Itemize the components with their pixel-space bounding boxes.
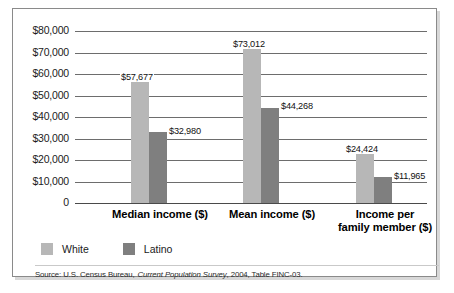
ytick-label-0: 0 (0, 196, 69, 208)
bar-value-latino-mean-income: $44,268 (280, 101, 314, 111)
axis-baseline (75, 203, 427, 204)
bar-white-median-income (131, 79, 149, 203)
gridline-80000 (75, 31, 427, 32)
legend-swatch-white-icon (41, 243, 53, 255)
bar-latino-mean-income (261, 108, 279, 203)
plot-area: $80,000 $70,000 $60,000 $50,000 $40,000 … (75, 31, 427, 203)
legend-swatch-latino-icon (123, 243, 135, 255)
source-divider (35, 265, 439, 266)
bar-value-latino-median-income: $32,980 (168, 126, 202, 136)
ytick-label-20000: $20,000 (0, 153, 69, 165)
ytick-label-60000: $60,000 (0, 67, 69, 79)
source-suffix: , 2004, Table FINC-03. (227, 270, 303, 279)
source-note: Source: U.S. Census Bureau,Current Popul… (35, 270, 303, 279)
bar-white-income-per-family-member (356, 151, 374, 204)
bar-value-latino-income-per-family-member: $11,965 (393, 171, 426, 181)
ytick-label-70000: $70,000 (0, 46, 69, 58)
bar-value-white-mean-income: $73,012 (232, 39, 266, 49)
ytick-label-50000: $50,000 (0, 89, 69, 101)
legend-item-latino: Latino (123, 243, 173, 255)
legend-label-latino: Latino (144, 243, 173, 255)
ytick-label-30000: $30,000 (0, 132, 69, 144)
ytick-label-80000: $80,000 (0, 24, 69, 36)
chart-legend: White Latino (41, 243, 206, 255)
xtick-label-income-per-family-member-line1: Income per (295, 208, 454, 221)
source-prefix: Source: U.S. Census Bureau, (35, 270, 135, 279)
xtick-label-income-per-family-member-line2: family member ($) (295, 221, 454, 234)
legend-item-white: White (41, 243, 89, 255)
chart-figure: $80,000 $70,000 $60,000 $50,000 $40,000 … (0, 0, 454, 293)
bar-white-mean-income (243, 46, 261, 203)
bar-value-white-income-per-family-member: $24,424 (345, 144, 379, 154)
bar-latino-income-per-family-member (374, 177, 392, 203)
legend-label-white: White (62, 243, 89, 255)
source-publication: Current Population Survey (138, 270, 227, 279)
bar-value-white-median-income: $57,677 (120, 72, 154, 82)
bar-latino-median-income (149, 132, 167, 203)
chart-frame: $80,000 $70,000 $60,000 $50,000 $40,000 … (12, 8, 437, 277)
ytick-label-40000: $40,000 (0, 110, 69, 122)
ytick-label-10000: $10,000 (0, 175, 69, 187)
